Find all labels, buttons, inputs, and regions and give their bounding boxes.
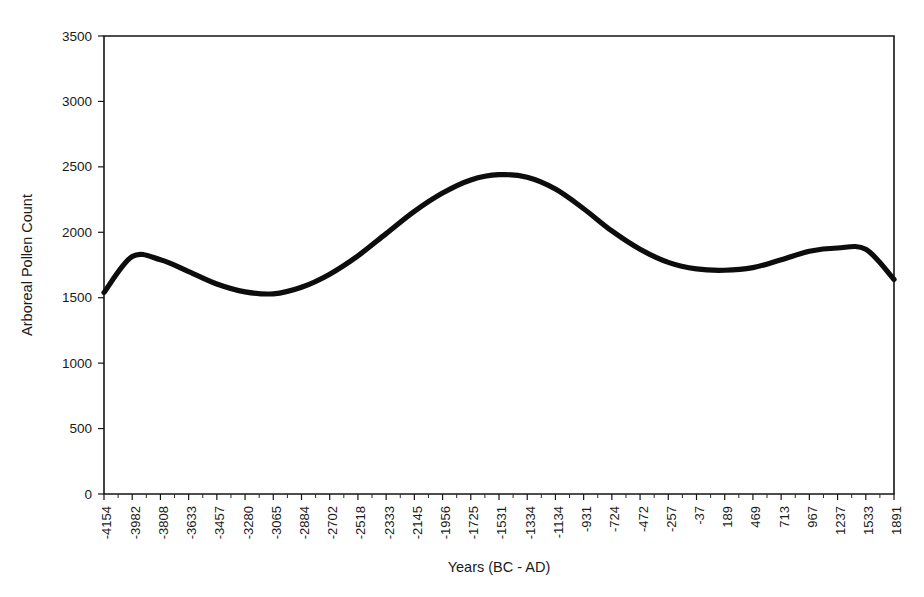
x-tick-label: -3633: [184, 506, 199, 539]
chart-canvas: 0500100015002000250030003500 -4154-3982-…: [0, 0, 924, 597]
arboreal-pollen-curve: [104, 175, 894, 294]
y-tick-label: 1500: [62, 290, 92, 305]
x-tick-label: -4154: [99, 506, 114, 539]
y-axis-tick-labels: 0500100015002000250030003500: [62, 29, 92, 502]
x-tick-label: 1237: [833, 506, 848, 535]
pollen-count-chart: 0500100015002000250030003500 -4154-3982-…: [0, 0, 924, 597]
x-tick-label: 1891: [889, 506, 904, 535]
x-tick-label: -37: [692, 506, 707, 525]
x-tick-label: -1531: [494, 506, 509, 539]
y-axis-ticks: [98, 36, 104, 494]
plot-frame: [104, 36, 894, 494]
data-series-group: [104, 175, 894, 294]
x-tick-label: -3065: [269, 506, 284, 539]
x-axis-title: Years (BC - AD): [448, 559, 551, 575]
x-tick-label: 1533: [861, 506, 876, 535]
y-tick-label: 500: [69, 421, 92, 436]
y-tick-label: 1000: [62, 356, 92, 371]
x-tick-label: -1725: [466, 506, 481, 539]
y-axis-title: Arboreal Pollen Count: [19, 194, 35, 336]
x-tick-label: -2518: [353, 506, 368, 539]
x-tick-label: -1956: [438, 506, 453, 539]
x-axis-ticks: [104, 494, 894, 500]
x-tick-label: -257: [664, 506, 679, 532]
y-tick-label: 2000: [62, 225, 92, 240]
plot-border: [104, 36, 894, 494]
x-tick-label: -724: [607, 506, 622, 532]
x-tick-label: -3280: [241, 506, 256, 539]
x-tick-label: -472: [636, 506, 651, 532]
x-axis-tick-labels: -4154-3982-3808-3633-3457-3280-3065-2884…: [99, 506, 904, 539]
x-tick-label: -2145: [410, 506, 425, 539]
x-tick-label: -931: [579, 506, 594, 532]
x-tick-label: -3982: [128, 506, 143, 539]
x-tick-label: 967: [805, 506, 820, 528]
x-tick-label: 469: [748, 506, 763, 528]
y-tick-label: 3500: [62, 29, 92, 44]
x-tick-label: 189: [720, 506, 735, 528]
x-tick-label: 713: [777, 506, 792, 528]
x-tick-label: -2884: [297, 506, 312, 539]
x-tick-label: -1134: [551, 506, 566, 538]
x-tick-label: -2333: [382, 506, 397, 539]
x-tick-label: -1334: [523, 506, 538, 539]
y-tick-label: 3000: [62, 94, 92, 109]
x-tick-label: -2702: [325, 506, 340, 539]
x-tick-label: -3808: [156, 506, 171, 539]
y-tick-label: 0: [84, 487, 92, 502]
y-tick-label: 2500: [62, 159, 92, 174]
x-tick-label: -3457: [212, 506, 227, 539]
